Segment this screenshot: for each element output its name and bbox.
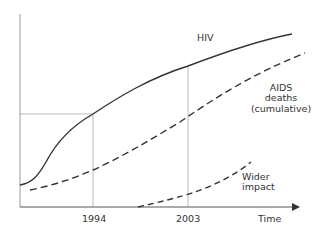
- hiv-label: HIV: [197, 33, 213, 43]
- tick-2003: 2003: [176, 214, 200, 224]
- x-axis-arrow-icon: [292, 203, 300, 211]
- tick-1994: 1994: [82, 214, 106, 224]
- aids-deaths-label: AIDS deaths (cumulative): [246, 83, 316, 114]
- wider-label-line2: impact: [242, 182, 275, 192]
- aids-label-line3: (cumulative): [246, 104, 316, 114]
- wider-impact-label: Wider impact: [242, 172, 275, 193]
- x-axis-label: Time: [258, 214, 281, 224]
- wider-impact-curve: [138, 162, 251, 207]
- epidemic-curves-diagram: [0, 0, 319, 237]
